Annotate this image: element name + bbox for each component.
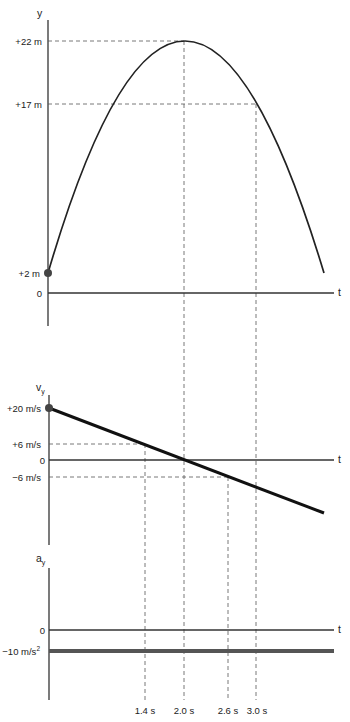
tick-t-1-4: 1.4 s <box>135 705 156 716</box>
tick-y-22: +22 m <box>15 36 42 47</box>
velocity-graph: vy t +20 m/s +6 m/s 0 −6 m/s <box>7 381 341 545</box>
tick-v-minus-6: −6 m/s <box>12 472 41 483</box>
tick-y-17: +17 m <box>15 99 42 110</box>
velocity-t-axis-label: t <box>338 453 341 465</box>
acceleration-graph: ay t 0 −10 m/s2 <box>2 552 341 700</box>
tick-v-6: +6 m/s <box>12 439 41 450</box>
acceleration-t-axis-label: t <box>338 623 341 635</box>
tick-y-0: 0 <box>37 288 42 299</box>
position-t-axis-label: t <box>338 286 341 298</box>
tick-v-0: 0 <box>40 455 45 466</box>
velocity-y-axis-label: vy <box>36 381 45 396</box>
position-y-axis-label: y <box>37 7 43 19</box>
tick-y-2: +2 m <box>19 268 40 279</box>
tick-a-minus-10: −10 m/s2 <box>2 645 40 657</box>
position-graph: y t +22 m +17 m +2 m 0 <box>15 7 341 326</box>
position-curve <box>48 41 324 273</box>
tick-t-3-0: 3.0 s <box>247 705 268 716</box>
tick-t-2-0: 2.0 s <box>174 705 195 716</box>
tick-t-2-6: 2.6 s <box>218 705 239 716</box>
time-tick-labels: 1.4 s 2.0 s 2.6 s 3.0 s <box>135 705 268 716</box>
velocity-start-marker <box>45 404 53 412</box>
kinematics-figure: y t +22 m +17 m +2 m 0 vy t +20 m/s +6 m… <box>0 0 350 722</box>
acceleration-y-axis-label: ay <box>36 552 46 567</box>
tick-v-20: +20 m/s <box>7 403 41 414</box>
position-start-marker <box>44 269 52 277</box>
tick-a-0: 0 <box>40 625 45 636</box>
